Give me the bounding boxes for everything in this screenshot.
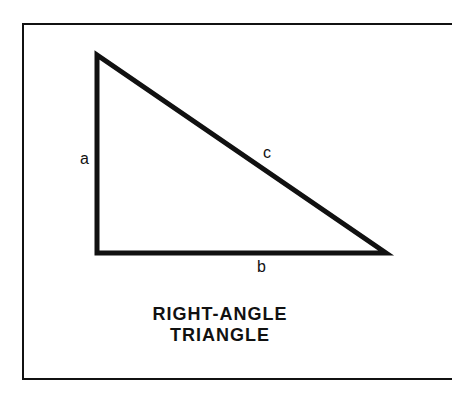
- side-label-c: c: [263, 144, 271, 162]
- side-label-a: a: [80, 150, 89, 168]
- diagram-title: RIGHT-ANGLE TRIANGLE: [120, 304, 320, 346]
- title-line-1: RIGHT-ANGLE: [120, 304, 320, 325]
- title-line-2: TRIANGLE: [120, 325, 320, 346]
- side-label-b: b: [257, 258, 266, 276]
